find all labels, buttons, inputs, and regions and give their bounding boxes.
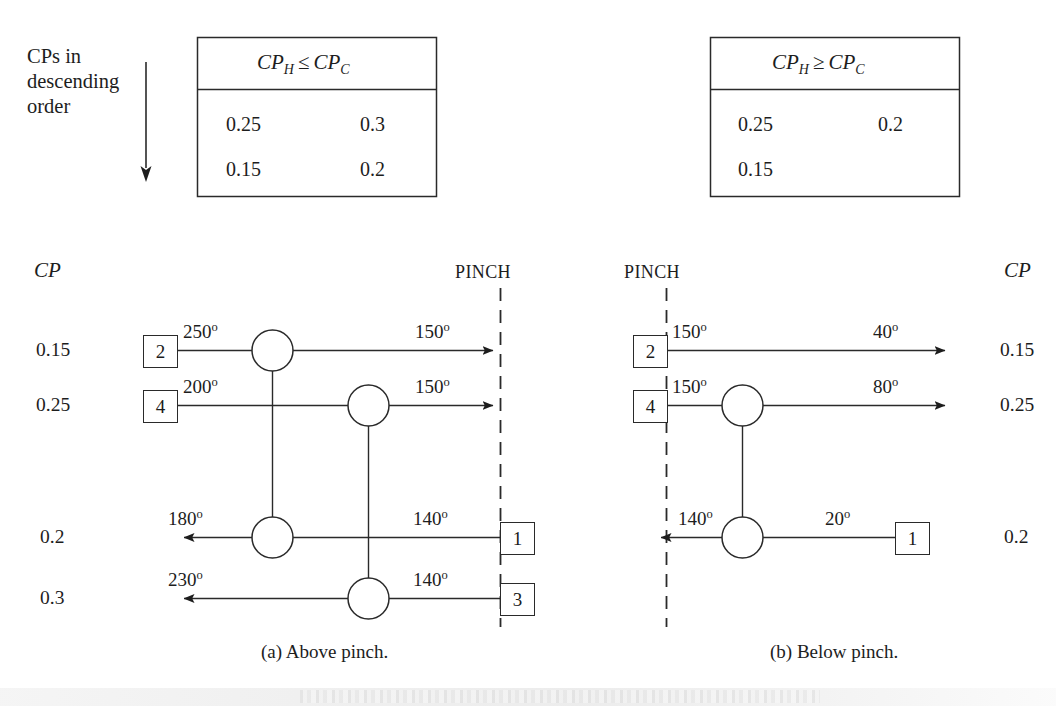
stream-unit-box[interactable]: 2 [633, 335, 668, 368]
temp-value: 80 [873, 376, 892, 397]
stream-unit-box[interactable]: 3 [500, 583, 535, 616]
cp-axis-label-a: CP [34, 258, 61, 283]
degree-sign: o [442, 507, 448, 521]
caption-below-pinch: (b) Below pinch. [770, 641, 898, 663]
note-line-2: descending [27, 69, 119, 94]
stream-unit-box[interactable]: 1 [895, 522, 930, 555]
cp-value: 0.25 [36, 394, 70, 416]
descending-order-note: CPs in descending order [27, 44, 119, 119]
unit-number: 4 [156, 396, 166, 418]
cp-value: 0.15 [1000, 339, 1034, 361]
table-cell: 0.2 [878, 113, 903, 136]
temp-value: 230 [168, 569, 197, 590]
degree-sign: o [892, 375, 898, 389]
temp-value: 150 [672, 376, 701, 397]
relation-symbol: ≥ [809, 50, 829, 74]
temperature-label: 180o [168, 507, 203, 530]
degree-sign: o [892, 320, 898, 334]
diagram-above-pinch-lines [176, 288, 501, 627]
figure-canvas: CPs in descending order CPH≤CPC 0.25 0.3… [0, 0, 1056, 713]
cp-h-sub: H [284, 62, 294, 77]
exchanger-circle [348, 385, 389, 426]
temp-value: 140 [413, 508, 442, 529]
caption-above-pinch: (a) Above pinch. [261, 641, 388, 663]
temp-value: 250 [183, 321, 212, 342]
exchanger-circle [348, 578, 389, 619]
degree-sign: o [844, 507, 850, 521]
unit-number: 2 [646, 341, 656, 363]
temperature-label: 140o [413, 568, 448, 591]
temperature-label: 150o [415, 320, 450, 343]
table-cell: 0.2 [360, 158, 385, 181]
unit-number: 1 [513, 528, 523, 550]
relation-symbol: ≤ [294, 50, 314, 74]
exchanger-circle [722, 385, 763, 426]
stream-unit-box[interactable]: 4 [633, 390, 668, 423]
temperature-label: 150o [415, 375, 450, 398]
stream-unit-box[interactable]: 4 [143, 390, 178, 423]
degree-sign: o [701, 320, 707, 334]
unit-number: 1 [908, 528, 918, 550]
cp-value: 0.2 [1004, 526, 1028, 548]
temp-value: 20 [825, 508, 844, 529]
temperature-label: 140o [413, 507, 448, 530]
degree-sign: o [701, 375, 707, 389]
cp-value: 0.3 [40, 587, 64, 609]
unit-number: 4 [646, 396, 656, 418]
note-line-1: CPs in [27, 44, 119, 69]
pinch-label-b: PINCH [624, 262, 680, 283]
temperature-label: 40o [873, 320, 898, 343]
table-cell: 0.3 [360, 113, 385, 136]
degree-sign: o [197, 507, 203, 521]
unit-number: 3 [513, 589, 523, 611]
cp-c-base: CP [829, 50, 856, 74]
degree-sign: o [444, 375, 450, 389]
cp-value: 0.25 [1000, 394, 1034, 416]
temperature-label: 140o [678, 507, 713, 530]
cp-c-sub: C [855, 62, 864, 77]
exchanger-circle [252, 330, 293, 371]
cp-value: 0.2 [40, 526, 64, 548]
cp-c-base: CP [314, 50, 341, 74]
temp-value: 200 [183, 376, 212, 397]
unit-number: 2 [156, 341, 166, 363]
temperature-label: 200o [183, 375, 218, 398]
temperature-label: 150o [672, 320, 707, 343]
cp-axis-label-b: CP [1004, 258, 1031, 283]
note-line-3: order [27, 94, 119, 119]
cp-h-base: CP [772, 50, 799, 74]
descending-order-arrow [141, 62, 152, 182]
temperature-label: 250o [183, 320, 218, 343]
temp-value: 150 [415, 376, 444, 397]
stream-unit-box[interactable]: 1 [500, 522, 535, 555]
temp-value: 140 [413, 569, 442, 590]
temp-value: 180 [168, 508, 197, 529]
degree-sign: o [444, 320, 450, 334]
scan-artifact-noise [300, 690, 820, 703]
exchanger-circle [722, 517, 763, 558]
temperature-label: 20o [825, 507, 850, 530]
temp-value: 150 [672, 321, 701, 342]
temp-value: 150 [415, 321, 444, 342]
table-above-pinch-header: CPH≤CPC [257, 50, 350, 78]
stream-unit-box[interactable]: 2 [143, 335, 178, 368]
table-cell: 0.25 [226, 113, 261, 136]
table-cell: 0.25 [738, 113, 773, 136]
temp-value: 140 [678, 508, 707, 529]
degree-sign: o [197, 568, 203, 582]
degree-sign: o [707, 507, 713, 521]
temp-value: 40 [873, 321, 892, 342]
temperature-label: 150o [672, 375, 707, 398]
degree-sign: o [212, 320, 218, 334]
degree-sign: o [442, 568, 448, 582]
temperature-label: 80o [873, 375, 898, 398]
cp-c-sub: C [340, 62, 349, 77]
temperature-label: 230o [168, 568, 203, 591]
exchanger-circle [252, 517, 293, 558]
table-cell: 0.15 [738, 158, 773, 181]
cp-value: 0.15 [36, 339, 70, 361]
degree-sign: o [212, 375, 218, 389]
cp-h-sub: H [799, 62, 809, 77]
table-below-pinch-header: CPH≥CPC [772, 50, 865, 78]
table-cell: 0.15 [226, 158, 261, 181]
